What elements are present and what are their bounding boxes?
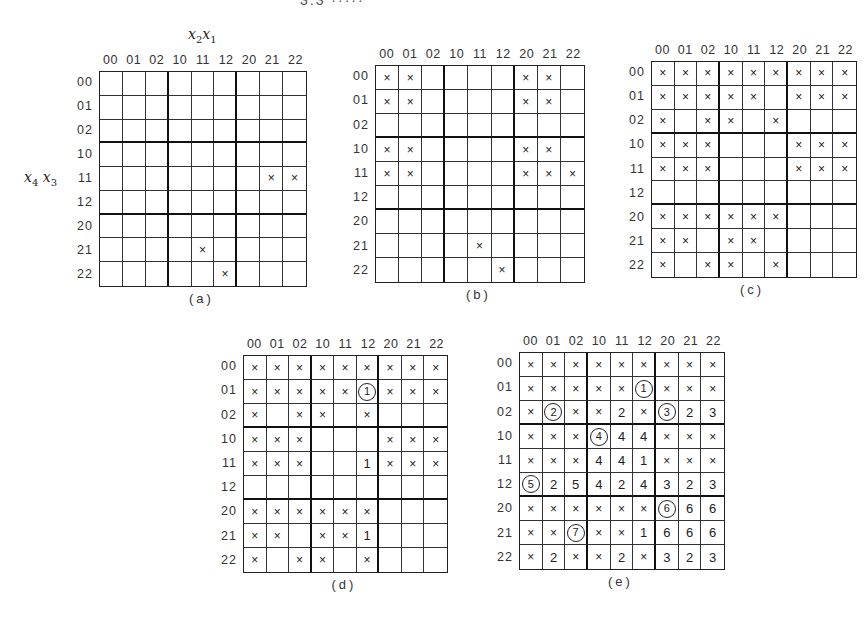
map-cell: × — [214, 262, 237, 286]
map-cell — [492, 186, 515, 210]
row-label: 12 — [213, 480, 237, 494]
cross-mark-icon: × — [251, 433, 258, 447]
map-cell: × — [788, 86, 811, 110]
map-cell — [538, 210, 561, 234]
cross-mark-icon: × — [527, 382, 534, 396]
column-label: 21 — [402, 337, 425, 351]
map-cell — [123, 96, 146, 120]
map-cell: × — [720, 205, 743, 229]
map-cell: × — [267, 380, 290, 404]
column-label: 00 — [519, 334, 542, 348]
map-cell — [146, 167, 169, 191]
row-label: 00 — [345, 69, 369, 83]
cross-mark-icon: × — [709, 358, 716, 372]
row-label: 20 — [621, 210, 645, 224]
column-label: 11 — [743, 43, 766, 57]
map-cell — [169, 120, 192, 144]
map-cell — [283, 143, 306, 167]
map-cell — [422, 210, 445, 234]
row-label: 02 — [345, 118, 369, 132]
map-cell: × — [788, 158, 811, 182]
cross-mark-icon: × — [659, 210, 666, 224]
row-label: 20 — [69, 219, 93, 233]
map-cell — [445, 138, 468, 162]
cross-mark-icon: × — [274, 505, 281, 519]
map-cell — [214, 191, 237, 215]
map-cell — [100, 238, 123, 262]
cross-mark-icon: × — [663, 358, 670, 372]
map-cell: × — [289, 404, 312, 428]
map-cell — [357, 428, 380, 452]
map-grid-b: ××××××××××××××××××× — [375, 65, 585, 283]
row-label: 11 — [345, 166, 369, 180]
map-cell — [379, 524, 402, 548]
map-cell: × — [565, 545, 588, 569]
cross-mark-icon: × — [595, 358, 602, 372]
map-cell — [123, 167, 146, 191]
map-cell: × — [788, 134, 811, 158]
map-cell: × — [743, 205, 766, 229]
cross-mark-icon: × — [296, 553, 303, 567]
map-cell: × — [312, 548, 335, 572]
cross-mark-icon: × — [387, 361, 394, 375]
cross-mark-icon: × — [818, 138, 825, 152]
map-cell — [515, 114, 538, 138]
cross-mark-icon: × — [545, 95, 552, 109]
map-cell: × — [379, 356, 402, 380]
map-cell: × — [811, 134, 834, 158]
map-cell — [675, 110, 698, 134]
map-cell: 1 — [357, 452, 380, 476]
map-cell — [379, 404, 402, 428]
column-label: 01 — [122, 53, 145, 67]
map-cell — [214, 167, 237, 191]
map-cell — [538, 114, 561, 138]
circled-number: 6 — [658, 500, 676, 518]
map-cell: 2 — [611, 545, 634, 569]
cross-mark-icon: × — [659, 258, 666, 272]
cross-mark-icon: × — [704, 114, 711, 128]
map-cell: 2 — [611, 401, 634, 425]
column-label: 12 — [357, 337, 380, 351]
map-cell: × — [244, 548, 267, 572]
map-cell — [376, 258, 399, 282]
map-cell: × — [543, 449, 566, 473]
map-cell — [214, 215, 237, 239]
map-cell — [192, 167, 215, 191]
map-cell: × — [376, 162, 399, 186]
cross-mark-icon: × — [296, 361, 303, 375]
cross-mark-icon: × — [341, 385, 348, 399]
map-cell: 2 — [679, 545, 702, 569]
map-cell: × — [656, 377, 679, 401]
column-label: 01 — [266, 337, 289, 351]
map-cell — [312, 428, 335, 452]
map-cell — [424, 476, 447, 500]
map-cell: × — [743, 229, 766, 253]
map-cell: × — [720, 253, 743, 277]
map-cell — [283, 238, 306, 262]
cross-mark-icon: × — [659, 162, 666, 176]
row-label: 10 — [345, 142, 369, 156]
cross-mark-icon: × — [387, 433, 394, 447]
cross-mark-icon: × — [841, 90, 848, 104]
map-cell: × — [244, 428, 267, 452]
column-label: 10 — [168, 53, 191, 67]
cross-mark-icon: × — [686, 454, 693, 468]
map-cell: × — [543, 425, 566, 449]
cross-mark-icon: × — [409, 433, 416, 447]
map-cell: × — [788, 62, 811, 86]
map-cell: × — [520, 401, 543, 425]
map-cell: × — [701, 377, 724, 401]
row-label: 12 — [69, 195, 93, 209]
row-label: 00 — [621, 65, 645, 79]
map-cell: 1 — [633, 377, 656, 401]
map-cell: × — [633, 353, 656, 377]
map-cell: × — [334, 380, 357, 404]
map-cell — [561, 186, 584, 210]
map-caption-c: (c) — [740, 282, 764, 297]
cross-mark-icon: × — [663, 430, 670, 444]
column-label: 22 — [284, 53, 307, 67]
map-cell: × — [701, 353, 724, 377]
map-cell: 6 — [679, 497, 702, 521]
map-cell: × — [565, 497, 588, 521]
map-cell — [422, 162, 445, 186]
